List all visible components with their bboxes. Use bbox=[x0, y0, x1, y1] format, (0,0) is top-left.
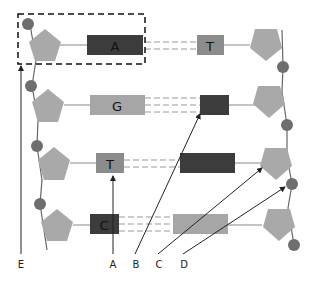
base-letter: A bbox=[111, 39, 120, 54]
sugar-pentagon-icon bbox=[41, 209, 73, 241]
label-d: D bbox=[180, 259, 188, 270]
sugar-pentagon-icon bbox=[253, 86, 285, 118]
base-block bbox=[200, 95, 229, 115]
sugar-pentagon-icon bbox=[29, 29, 61, 61]
phosphate-icon bbox=[286, 178, 298, 190]
label-e: E bbox=[18, 259, 24, 270]
label-b: B bbox=[133, 259, 140, 270]
pointer-c bbox=[158, 168, 262, 254]
sugar-pentagon-icon bbox=[260, 148, 292, 180]
phosphate-icon bbox=[277, 61, 289, 73]
label-a: A bbox=[110, 259, 117, 270]
base-block bbox=[173, 214, 228, 234]
left-bases bbox=[87, 35, 145, 234]
phosphate-icon bbox=[31, 140, 43, 152]
sugar-pentagon-icon bbox=[250, 29, 282, 61]
base-letter: T bbox=[205, 39, 214, 54]
right-sugars bbox=[250, 29, 295, 241]
phosphate-icon bbox=[288, 239, 300, 251]
base-letter: T bbox=[105, 157, 114, 172]
phosphate-icon bbox=[22, 18, 34, 30]
left-sugars bbox=[29, 29, 73, 241]
phosphate-icon bbox=[34, 198, 46, 210]
phosphate-icon bbox=[281, 119, 293, 131]
base-block bbox=[180, 153, 235, 173]
label-c: C bbox=[156, 259, 163, 270]
phosphate-icon bbox=[25, 80, 37, 92]
sugar-pentagon-icon bbox=[263, 209, 295, 241]
sugar-pentagon-icon bbox=[32, 89, 64, 122]
sugar-pentagon-icon bbox=[38, 147, 70, 180]
base-letter: C bbox=[99, 218, 108, 233]
right-bases bbox=[173, 35, 235, 234]
base-letter: G bbox=[112, 99, 122, 114]
dna-diagram: A T G T C E A B C D bbox=[0, 0, 315, 285]
hydrogen-bonds bbox=[119, 42, 200, 231]
